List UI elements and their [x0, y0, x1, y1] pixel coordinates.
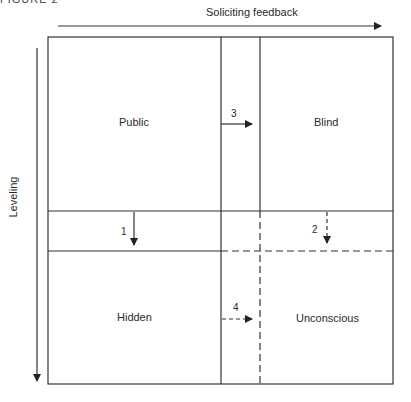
quadrant-hidden: Hidden [117, 311, 152, 323]
arrow-3-label: 3 [231, 108, 237, 119]
soliciting-feedback-label: Soliciting feedback [206, 6, 298, 18]
leveling-label: Leveling [7, 172, 19, 222]
arrow-2-label: 2 [312, 224, 318, 235]
arrow-4-label: 4 [233, 302, 239, 313]
quadrant-blind: Blind [314, 116, 338, 128]
arrow-1-label: 1 [121, 226, 127, 237]
quadrant-unconscious: Unconscious [296, 312, 359, 324]
johari-window-diagram [0, 0, 411, 402]
quadrant-public: Public [119, 116, 149, 128]
